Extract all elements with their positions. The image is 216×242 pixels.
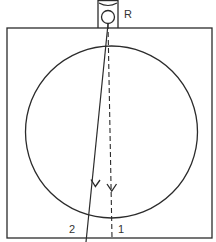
ray-1-label: 1 [118, 223, 124, 235]
ray-2-label: 2 [69, 223, 75, 235]
source-device [98, 0, 118, 28]
source-label: R [124, 8, 132, 20]
ray-diagram: R 1 2 [0, 0, 216, 242]
ray-1-line [108, 24, 112, 238]
source-ball [102, 11, 115, 24]
ray-2 [86, 24, 108, 242]
ray-2-line [86, 24, 108, 242]
ray-1 [107, 24, 117, 238]
ray-1-arrow-icon [107, 184, 117, 191]
container-square [7, 28, 212, 238]
source-housing-arc [99, 3, 117, 6]
